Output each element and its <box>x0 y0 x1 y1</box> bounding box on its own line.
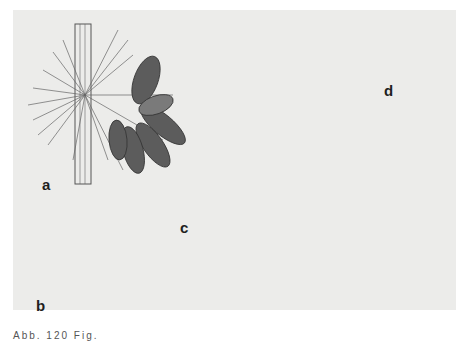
figure-caption: Abb. 120 Fig. <box>13 330 98 341</box>
panel-label-c: c <box>180 219 188 236</box>
panel-label-d: d <box>384 82 393 99</box>
illustration <box>13 10 456 310</box>
panel-label-b: b <box>36 297 45 314</box>
panel-a-drawing <box>28 24 191 184</box>
figure-plate: a b c d <box>13 10 456 310</box>
panel-label-a: a <box>42 176 50 193</box>
